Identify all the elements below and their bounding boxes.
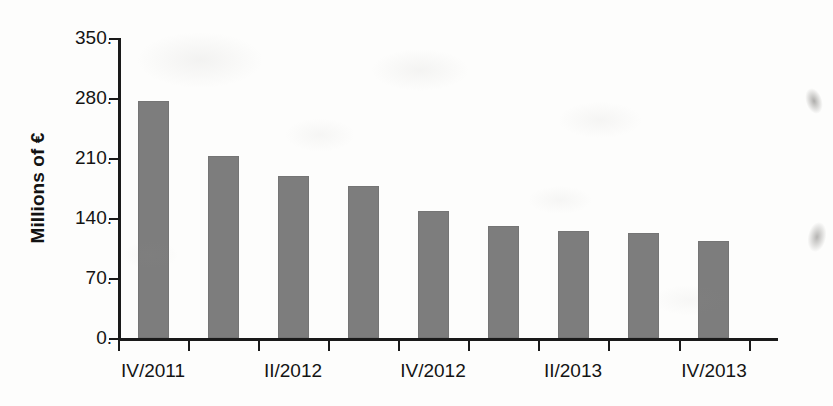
x-axis-label: IV/2012 xyxy=(400,360,466,382)
bar-chart: Millions of € 0.70.140.210.280.350. IV/2… xyxy=(0,0,833,406)
x-tick-mark xyxy=(538,341,540,351)
x-axis-label: IV/2011 xyxy=(121,360,185,382)
scan-artifact-lower-right xyxy=(805,220,829,253)
bar-III-2013 xyxy=(628,233,659,338)
x-tick-mark xyxy=(328,341,330,351)
bar-I-2013 xyxy=(488,226,519,338)
x-axis-label: II/2013 xyxy=(544,360,602,382)
bar-III-2012 xyxy=(348,186,379,338)
y-tick-label: 210. xyxy=(75,147,112,169)
bar-IV-2012 xyxy=(418,211,449,338)
bar-II-2013 xyxy=(558,231,589,338)
x-axis-label: IV/2013 xyxy=(681,360,747,382)
x-tick-mark xyxy=(398,341,400,351)
bar-IV-2013 xyxy=(698,241,729,338)
y-axis-line xyxy=(118,38,121,341)
y-tick-label: 70. xyxy=(86,267,112,289)
y-tick-label: 0. xyxy=(96,327,112,349)
x-tick-mark xyxy=(188,341,190,351)
x-tick-mark xyxy=(118,341,120,351)
x-tick-mark xyxy=(608,341,610,351)
bar-II-2012 xyxy=(278,176,309,338)
x-tick-mark xyxy=(468,341,470,351)
scan-artifact-upper-right xyxy=(802,86,825,116)
y-tick-label: 140. xyxy=(75,207,112,229)
x-tick-mark xyxy=(749,341,751,351)
x-tick-mark xyxy=(258,341,260,351)
bar-I-2012 xyxy=(208,156,239,338)
bar-IV-2011 xyxy=(138,101,169,338)
y-tick-label: 350. xyxy=(75,27,112,49)
x-axis-label: II/2012 xyxy=(264,360,322,382)
x-tick-mark xyxy=(679,341,681,351)
plot-area: 0.70.140.210.280.350. IV/2011II/2012IV/2… xyxy=(118,38,778,341)
y-tick-label: 280. xyxy=(75,87,112,109)
y-axis-title: Millions of € xyxy=(27,88,49,288)
